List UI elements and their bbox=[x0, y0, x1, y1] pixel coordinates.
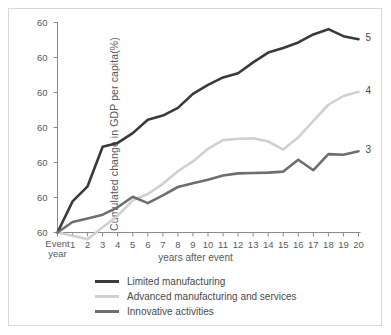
chart-legend: Limited manufacturingAdvanced manufactur… bbox=[95, 274, 355, 319]
legend-color-swatch bbox=[95, 310, 119, 313]
series-end-label: 3 bbox=[366, 144, 372, 155]
legend-item[interactable]: Advanced manufacturing and services bbox=[95, 289, 355, 304]
legend-item[interactable]: Limited manufacturing bbox=[95, 274, 355, 289]
chart-figure: Cumulated change in GDP per capita(%) 60… bbox=[0, 0, 391, 335]
legend-item-label: Innovative activities bbox=[127, 306, 214, 317]
legend-item-label: Limited manufacturing bbox=[127, 276, 225, 287]
legend-color-swatch bbox=[95, 280, 119, 283]
legend-item-label: Advanced manufacturing and services bbox=[127, 291, 297, 302]
legend-item[interactable]: Innovative activities bbox=[95, 304, 355, 319]
series-end-label: 5 bbox=[366, 32, 372, 43]
series-end-label: 4 bbox=[366, 85, 372, 96]
legend-color-swatch bbox=[95, 295, 119, 298]
